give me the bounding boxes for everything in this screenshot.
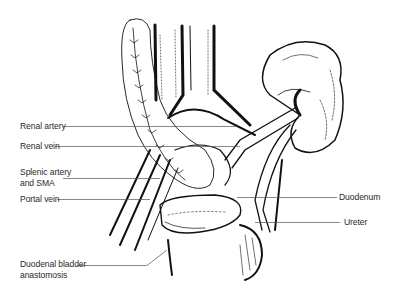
label-splenic-artery-line2: and SMA	[20, 178, 55, 189]
label-renal-artery: Renal artery	[20, 121, 66, 132]
label-duodenal-line2: anastomosis	[20, 270, 67, 281]
label-splenic-artery-line1: Splenic artery	[20, 167, 71, 178]
label-duodenum: Duodenum	[339, 192, 380, 203]
label-duodenal-line1: Duodenal bladder	[20, 259, 86, 270]
duodenum	[160, 195, 241, 233]
aorta-vena-cava	[155, 25, 255, 135]
label-portal-vein: Portal vein	[20, 194, 60, 205]
label-renal-vein: Renal vein	[20, 141, 60, 152]
leader-duodenal-anastomosis	[77, 250, 167, 266]
anatomical-illustration: Renal artery Renal vein Splenic artery a…	[0, 0, 394, 297]
label-ureter: Ureter	[344, 217, 367, 228]
kidney	[263, 42, 344, 153]
